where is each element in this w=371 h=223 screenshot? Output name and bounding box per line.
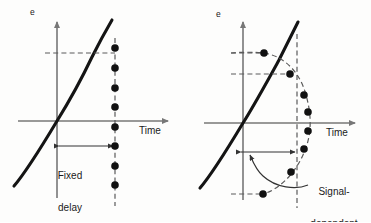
callout-line: dependent (302, 219, 366, 223)
sample-dot (260, 49, 268, 57)
callout-line: Signal- (302, 187, 366, 198)
sample-dot (111, 44, 119, 52)
sample-dot (111, 181, 119, 189)
right-y-axis-label: e (216, 9, 221, 20)
sample-dot (111, 84, 119, 92)
left-y-axis-label: e (30, 7, 35, 18)
sample-dot (304, 108, 312, 116)
right-x-axis-label: Time (326, 128, 348, 139)
callout-line: Fixed (46, 171, 94, 182)
sample-dot (111, 64, 119, 72)
sample-dot (111, 142, 119, 150)
sample-dot (300, 145, 308, 153)
sample-dot (259, 190, 267, 198)
left-x-axis-label: Time (139, 126, 161, 137)
sample-dot (286, 70, 294, 78)
sample-dot (111, 162, 119, 170)
sample-dot (111, 103, 119, 111)
right-signal-curve (200, 22, 298, 188)
sample-dot (300, 91, 308, 99)
left-fixed-delay-callout: Fixed delay (46, 150, 94, 222)
right-callout-leader-arc (250, 155, 308, 188)
sample-dot (304, 127, 312, 135)
sample-dot (111, 123, 119, 131)
right-signal-dependent-callout: Signal- dependent sampling time (302, 166, 366, 222)
sample-dot (287, 168, 295, 176)
callout-line: delay (46, 203, 94, 214)
